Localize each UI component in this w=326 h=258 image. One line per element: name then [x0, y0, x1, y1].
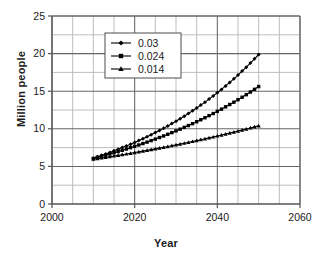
x-tick-label: 2020 [123, 211, 147, 223]
x-tick-label: 2000 [40, 211, 64, 223]
data-point [178, 127, 181, 130]
data-point [174, 129, 177, 132]
y-tick-label: 0 [39, 198, 45, 210]
data-point [232, 100, 235, 103]
x-axis-title: Year [136, 237, 196, 249]
data-point [253, 88, 256, 91]
data-point [195, 120, 198, 123]
data-point [125, 147, 128, 150]
data-point [149, 133, 153, 137]
data-point [187, 124, 190, 127]
y-tick-label: 5 [39, 160, 45, 172]
chart-figure: 051015202520002020204020600.030.0240.014… [0, 0, 326, 258]
data-point [212, 112, 215, 115]
data-point [137, 143, 140, 146]
data-point [257, 124, 261, 128]
data-point [162, 134, 165, 137]
data-point [145, 140, 148, 143]
chart-legend: 0.030.0240.014 [105, 33, 181, 78]
legend-label: 0.014 [138, 63, 164, 75]
data-point [216, 110, 219, 113]
data-point [224, 105, 227, 108]
x-tick-label: 2060 [288, 211, 312, 223]
y-axis-title: Million people [15, 41, 27, 137]
data-point [240, 96, 243, 99]
data-point [183, 126, 186, 129]
legend-marker-square-icon [119, 54, 123, 58]
data-point [207, 114, 210, 117]
data-point [166, 133, 169, 136]
data-point [220, 107, 223, 110]
data-point [150, 139, 153, 142]
legend-label: 0.03 [138, 37, 159, 49]
data-point [203, 116, 206, 119]
data-point [141, 137, 145, 141]
data-point [133, 140, 137, 144]
data-point [141, 142, 144, 145]
data-point [121, 149, 124, 152]
data-point [170, 131, 173, 134]
data-point [129, 142, 133, 146]
data-point [137, 139, 141, 143]
data-point [228, 103, 231, 106]
legend-label: 0.024 [138, 50, 164, 62]
data-point [116, 150, 119, 153]
data-point [129, 146, 132, 149]
x-tick-label: 2040 [206, 211, 230, 223]
data-point [133, 145, 136, 148]
data-point [245, 93, 248, 96]
data-point [158, 136, 161, 139]
data-point [154, 137, 157, 140]
chart-canvas: 051015202520002020204020600.030.0240.014 [0, 0, 326, 258]
data-point [257, 85, 260, 88]
y-tick-label: 10 [33, 122, 45, 134]
data-point [191, 122, 194, 125]
data-point [199, 118, 202, 121]
data-point [145, 135, 149, 139]
data-point [249, 90, 252, 93]
y-tick-label: 20 [33, 47, 45, 59]
y-tick-label: 15 [33, 85, 45, 97]
data-point [236, 98, 239, 101]
data-point [153, 131, 157, 135]
y-tick-label: 25 [33, 10, 45, 22]
